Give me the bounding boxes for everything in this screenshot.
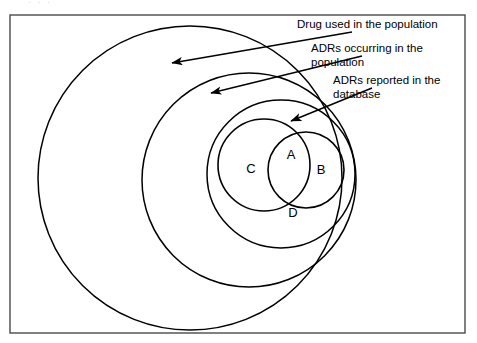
region-label-d: D [288, 205, 297, 220]
region-label-a: A [287, 147, 296, 162]
callout-adrs-occurring-line-1: ADRs occurring in the [311, 42, 423, 54]
callout-adrs-reported-line-2: database [333, 88, 380, 100]
callout-drug-used-line-1: Drug used in the population [297, 18, 438, 30]
callout-adrs-occurring-line-2: population [311, 56, 364, 68]
figure-root: · · · A B C D Drug used in the populatio… [0, 0, 477, 343]
venn-diagram-svg: A B C D Drug used in the population ADRs… [0, 0, 477, 343]
figure-border [10, 15, 465, 333]
callout-adrs-reported-line-1: ADRs reported in the [333, 74, 440, 86]
region-label-c: C [246, 161, 255, 176]
region-label-b: B [317, 162, 326, 177]
